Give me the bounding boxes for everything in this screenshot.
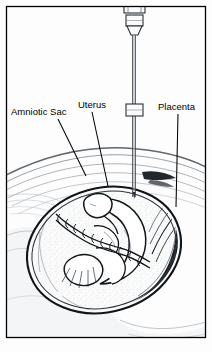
amniocentesis-illustration: Amniotic Sac Uterus Placenta: [0, 0, 212, 352]
label-placenta: Placenta: [158, 101, 196, 112]
illustration-canvas: Amniotic Sac Uterus Placenta: [0, 0, 212, 352]
label-uterus: Uterus: [78, 99, 106, 110]
label-amniotic-sac: Amniotic Sac: [11, 106, 67, 117]
